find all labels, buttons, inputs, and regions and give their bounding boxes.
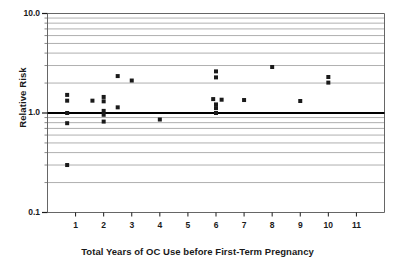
data-point — [158, 118, 162, 122]
data-point — [130, 79, 134, 83]
data-point — [90, 99, 94, 103]
x-tick-label: 1 — [61, 220, 91, 230]
data-point — [102, 95, 106, 99]
x-tick-label: 5 — [173, 220, 203, 230]
data-point — [102, 109, 106, 113]
data-point — [65, 93, 69, 97]
data-point — [326, 81, 330, 85]
data-point — [211, 97, 215, 101]
data-point — [65, 99, 69, 103]
data-point — [242, 98, 246, 102]
y-axis-label: Relative Risk — [17, 38, 28, 158]
gridlines-group — [48, 18, 385, 182]
data-point — [214, 111, 218, 115]
y-tick-label: 10.0 — [10, 8, 40, 18]
chart-figure: Relative Risk Total Years of OC Use befo… — [0, 0, 395, 267]
data-point — [214, 75, 218, 79]
x-tick-label: 11 — [341, 220, 371, 230]
data-point — [102, 113, 106, 117]
data-point — [214, 69, 218, 73]
data-point — [102, 120, 106, 124]
y-tick-label: 1.0 — [10, 107, 40, 117]
x-tick-label: 6 — [201, 220, 231, 230]
x-tick-label: 8 — [257, 220, 287, 230]
data-point — [220, 98, 224, 102]
data-point — [270, 65, 274, 69]
y-tick-label: 0.1 — [10, 207, 40, 217]
data-point — [326, 75, 330, 79]
data-point — [116, 105, 120, 109]
data-point — [65, 163, 69, 167]
x-axis-label: Total Years of OC Use before First-Term … — [0, 246, 395, 257]
x-tick-label: 9 — [285, 220, 315, 230]
y-axis-ticks — [42, 14, 48, 213]
data-point — [65, 121, 69, 125]
data-point — [102, 99, 106, 103]
x-tick-label: 7 — [229, 220, 259, 230]
data-point — [116, 74, 120, 78]
x-tick-label: 3 — [117, 220, 147, 230]
x-axis-ticks — [76, 213, 357, 217]
x-tick-label: 2 — [89, 220, 119, 230]
x-tick-label: 4 — [145, 220, 175, 230]
x-tick-label: 10 — [313, 220, 343, 230]
data-point — [298, 99, 302, 103]
data-points-group — [65, 65, 330, 167]
data-point — [214, 102, 218, 106]
data-point — [65, 111, 69, 115]
data-point — [214, 106, 218, 110]
